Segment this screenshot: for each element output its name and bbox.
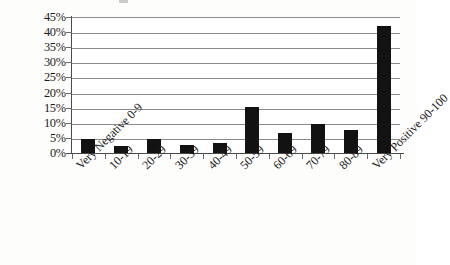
bar <box>311 124 325 154</box>
x-axis-tick-mark <box>236 154 237 159</box>
x-axis-tick-mark <box>105 154 106 159</box>
y-axis-tick-label: 0% <box>22 147 66 159</box>
y-axis-tick-label: 25% <box>22 71 66 83</box>
gridline <box>72 63 400 64</box>
plot-area <box>72 17 400 154</box>
y-axis-tick-label: 10% <box>22 117 66 129</box>
y-axis-tick-label: 5% <box>22 132 66 144</box>
x-axis-tick-mark <box>138 154 139 159</box>
x-axis-tick-mark <box>367 154 368 159</box>
gridline <box>72 48 400 49</box>
gridline <box>72 109 400 110</box>
bar <box>377 26 391 154</box>
y-axis-tick-label: 45% <box>22 11 66 23</box>
x-axis-tick-mark <box>302 154 303 159</box>
bar <box>344 130 358 154</box>
gridline <box>72 124 400 125</box>
x-axis-tick-mark <box>400 154 401 159</box>
gridline <box>72 78 400 79</box>
y-axis-tick-label: 15% <box>22 102 66 114</box>
x-axis-tick-mark <box>170 154 171 159</box>
x-axis-tick-mark <box>269 154 270 159</box>
gridline <box>72 94 400 95</box>
gridline <box>72 33 400 34</box>
x-axis-tick-mark <box>72 154 73 159</box>
x-axis-line <box>66 153 404 154</box>
bar <box>147 139 161 154</box>
y-axis-tick-label: 20% <box>22 87 66 99</box>
y-axis-tick-labels: 45%40%35%30%25%20%15%10%5%0% <box>22 10 66 160</box>
x-axis-tick-mark <box>334 154 335 159</box>
scan-artifact <box>119 0 128 3</box>
y-axis-tick-label: 30% <box>22 56 66 68</box>
y-axis-tick-label: 35% <box>22 41 66 53</box>
bar <box>245 107 259 154</box>
y-axis-tick-label: 40% <box>22 26 66 38</box>
bar <box>81 139 95 154</box>
bar <box>278 133 292 154</box>
x-axis-tick-mark <box>203 154 204 159</box>
